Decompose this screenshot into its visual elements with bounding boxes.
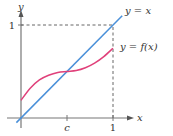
- y-axis-label: y: [17, 1, 24, 12]
- series-line-identity: [16, 16, 122, 123]
- x-tick-label-1: 1: [110, 122, 116, 133]
- y-tick-label-0: 1: [9, 20, 15, 31]
- annotation-y-equals-fx: y = f(x): [119, 41, 158, 52]
- x-tick-label-0: c: [64, 122, 70, 133]
- fixed-point-chart: xyc11y = xy = f(x): [0, 0, 173, 136]
- x-axis-label: x: [137, 112, 143, 123]
- x-axis-arrow-icon: [127, 116, 134, 121]
- series-line-f: [21, 48, 113, 100]
- annotation-y-equals-x: y = x: [124, 5, 151, 16]
